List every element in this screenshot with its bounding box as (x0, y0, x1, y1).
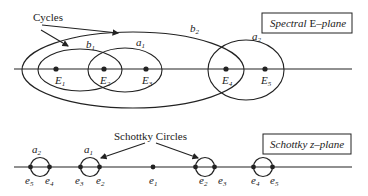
branch-point-E5: E5 (260, 66, 272, 88)
svg-text:Schottky z–plane: Schottky z–plane (270, 138, 344, 150)
schottky-arrow-right (156, 143, 198, 158)
cycle-label-b1: b1 (86, 38, 95, 52)
svg-text:e4: e4 (251, 174, 260, 188)
riemann-surface-diagram: Spectral E–plane b1 a1 b2 a2 Cycles E1 E… (0, 0, 368, 196)
cycle-a2 (208, 40, 284, 100)
branch-point-E1: E1 (53, 66, 65, 88)
schottky-point-e1: e1 (149, 165, 157, 188)
svg-text:e3: e3 (218, 174, 227, 188)
svg-text:e2: e2 (96, 174, 105, 188)
svg-text:e3: e3 (75, 174, 84, 188)
schottky-z-plane: Schottky z–plane a2 a1 Schottky Circles … (14, 130, 352, 188)
cycle-label-a1: a1 (136, 36, 145, 50)
svg-text:E5: E5 (260, 74, 272, 88)
cycles-arrow-to-b2 (42, 25, 118, 33)
cycle-label-b2: b2 (190, 22, 200, 36)
schottky-plane-label-box: Schottky z–plane (263, 134, 351, 154)
schottky-label-a2: a2 (32, 143, 42, 157)
svg-text:e5: e5 (25, 174, 34, 188)
branch-point-E3: E3 (141, 66, 153, 88)
svg-text:Spectral E–plane: Spectral E–plane (270, 17, 346, 29)
branch-point-E4: E4 (221, 66, 233, 88)
branch-point-E2: E2 (99, 66, 111, 88)
cycles-annotation: Cycles (33, 11, 63, 23)
schottky-point-e3-right: e3 (212, 165, 227, 188)
schottky-circles-annotation: Schottky Circles (114, 130, 187, 142)
svg-text:e5: e5 (270, 174, 279, 188)
schottky-label-a1: a1 (84, 143, 93, 157)
schottky-arrow-left (101, 143, 145, 158)
svg-text:E1: E1 (54, 74, 65, 88)
svg-text:E3: E3 (141, 74, 153, 88)
cycle-label-a2: a2 (252, 30, 262, 44)
svg-text:e4: e4 (45, 174, 54, 188)
schottky-point-e4-left: e4 (45, 165, 54, 188)
spectral-e-plane: Spectral E–plane b1 a1 b2 a2 Cycles E1 E… (14, 11, 352, 108)
schottky-point-e3-left: e3 (75, 165, 84, 188)
svg-text:E2: E2 (99, 74, 111, 88)
schottky-point-e4-right: e4 (251, 165, 260, 188)
svg-text:e1: e1 (149, 174, 157, 188)
spectral-plane-label-box: Spectral E–plane (262, 13, 352, 33)
schottky-point-e5-left: e5 (25, 165, 34, 188)
svg-text:E4: E4 (221, 74, 233, 88)
schottky-point-e5-right: e5 (270, 165, 279, 188)
schottky-point-e2-left: e2 (96, 165, 105, 188)
